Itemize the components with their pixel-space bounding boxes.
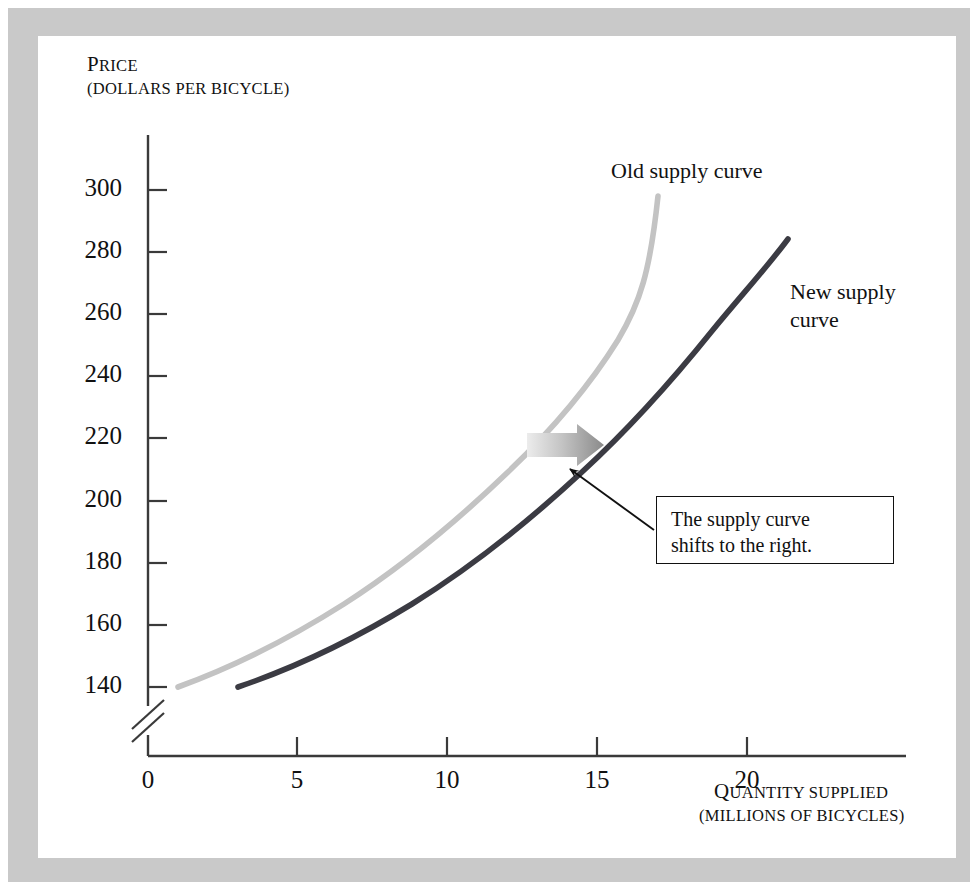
x-axis-subtitle: (MILLIONS OF BICYCLES) (699, 806, 905, 826)
x-tick-label-0: 0 (118, 766, 178, 794)
y-axis-subtitle: (DOLLARS PER BICYCLE) (87, 79, 289, 99)
y-tick-label-300: 300 (62, 174, 122, 202)
x-tick-label-20: 20 (717, 766, 777, 794)
y-axis-title: PRICE (87, 52, 138, 78)
y-tick-label-240: 240 (62, 360, 122, 388)
new-supply-curve-label-line1: New supply (790, 278, 896, 306)
y-tick-label-180: 180 (62, 547, 122, 575)
y-tick-label-220: 220 (62, 422, 122, 450)
y-tick-label-280: 280 (62, 236, 122, 264)
shift-callout-line2: shifts to the right. (671, 532, 812, 558)
x-tick-label-15: 15 (567, 766, 627, 794)
figure-white-canvas (38, 36, 956, 858)
y-tick-label-260: 260 (62, 298, 122, 326)
y-tick-label-160: 160 (62, 609, 122, 637)
new-supply-curve-label-line2: curve (790, 306, 896, 334)
figure-gray-border (8, 8, 970, 882)
shift-callout-line1: The supply curve (671, 506, 812, 532)
new-supply-curve-label: New supply curve (790, 278, 896, 333)
y-axis-title-initial: P (87, 52, 99, 76)
y-tick-label-200: 200 (62, 485, 122, 513)
x-tick-label-10: 10 (417, 766, 477, 794)
old-supply-curve-label-line1: Old supply curve (611, 157, 763, 185)
y-tick-label-140: 140 (62, 671, 122, 699)
shift-callout-text: The supply curve shifts to the right. (671, 506, 812, 559)
x-tick-label-5: 5 (267, 766, 327, 794)
shift-callout-box: The supply curve shifts to the right. (656, 496, 894, 564)
figure-frame: PRICE (DOLLARS PER BICYCLE) QUANTITY SUP… (0, 0, 978, 890)
old-supply-curve-label: Old supply curve (611, 157, 763, 185)
y-axis-title-rest: RICE (99, 56, 138, 75)
